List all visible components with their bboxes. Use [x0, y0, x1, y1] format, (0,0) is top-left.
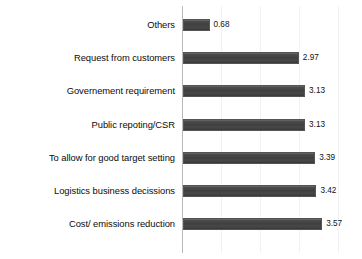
category-label: Governement requirement — [0, 82, 180, 100]
bar-row: Logistics business decissions3.42 — [0, 182, 362, 200]
bar-row: Others0.68 — [0, 16, 362, 34]
category-label: Public repoting/CSR — [0, 116, 180, 134]
bar-container — [183, 19, 210, 31]
bar-value-label: 3.57 — [326, 215, 342, 233]
bar-row: Public repoting/CSR3.13 — [0, 116, 362, 134]
bar-value-label: 2.97 — [303, 49, 319, 67]
bar-container — [183, 85, 305, 97]
bar-row: Governement requirement3.13 — [0, 82, 362, 100]
bar — [183, 52, 299, 64]
bar-container — [183, 218, 322, 230]
bar-row: To allow for good target setting3.39 — [0, 149, 362, 167]
bar-value-label: 3.13 — [309, 116, 325, 134]
bar — [183, 85, 305, 97]
bar — [183, 152, 315, 164]
bar — [183, 119, 305, 131]
bar-container — [183, 52, 299, 64]
category-label: Logistics business decissions — [0, 182, 180, 200]
category-label: To allow for good target setting — [0, 149, 180, 167]
bar-container — [183, 119, 305, 131]
bar — [183, 218, 322, 230]
bar-row: Request from customers2.97 — [0, 49, 362, 67]
bar-container — [183, 185, 316, 197]
bar-row: Cost/ emissions reduction3.57 — [0, 215, 362, 233]
category-label: Others — [0, 16, 180, 34]
category-label: Cost/ emissions reduction — [0, 215, 180, 233]
bar-value-label: 0.68 — [214, 16, 230, 34]
bar-chart: Others0.68Request from customers2.97Gove… — [0, 0, 362, 259]
bar-container — [183, 152, 315, 164]
category-label: Request from customers — [0, 49, 180, 67]
bar-value-label: 3.42 — [320, 182, 336, 200]
bar-value-label: 3.13 — [309, 82, 325, 100]
bar-value-label: 3.39 — [319, 149, 335, 167]
bar — [183, 19, 210, 31]
bar — [183, 185, 316, 197]
